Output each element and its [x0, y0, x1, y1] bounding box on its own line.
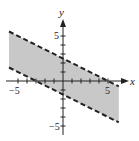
x-axis-arrow-icon — [121, 78, 129, 84]
x-min-label: −5 — [9, 85, 20, 96]
y-max-label: 5 — [54, 30, 59, 41]
x-max-label: 5 — [105, 85, 110, 96]
graph: x y −5 5 5 −5 — [0, 0, 139, 141]
coordinate-plane: x y −5 5 5 −5 — [0, 0, 139, 141]
y-axis-label: y — [58, 6, 64, 18]
x-axis-label: x — [129, 75, 135, 87]
y-min-label: −5 — [49, 121, 60, 132]
y-axis-arrow-icon — [60, 19, 66, 27]
